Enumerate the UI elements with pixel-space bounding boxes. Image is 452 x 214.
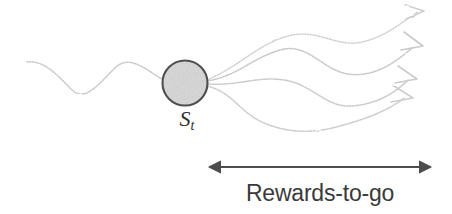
diagram-canvas: St Rewards-to-go [0,0,452,214]
past-trajectory [27,62,166,94]
branch-trajectories [207,5,424,131]
state-node [163,61,208,106]
branch-4 [207,86,413,131]
span-arrow-left-head [209,161,221,173]
branch-3 [207,66,417,106]
branch-2-arrowhead [401,32,423,50]
rewards-to-go-span-arrow [209,161,431,173]
branch-1-arrowhead [405,5,424,19]
branch-2 [207,32,423,81]
state-label-symbol: S [180,106,191,131]
state-label: St [160,108,214,133]
branch-4-arrowhead [391,86,413,102]
span-arrow-right-head [419,161,431,173]
state-label-subscript: t [191,118,195,133]
rewards-to-go-caption: Rewards-to-go [196,181,444,205]
branch-3-arrowhead [395,66,417,83]
